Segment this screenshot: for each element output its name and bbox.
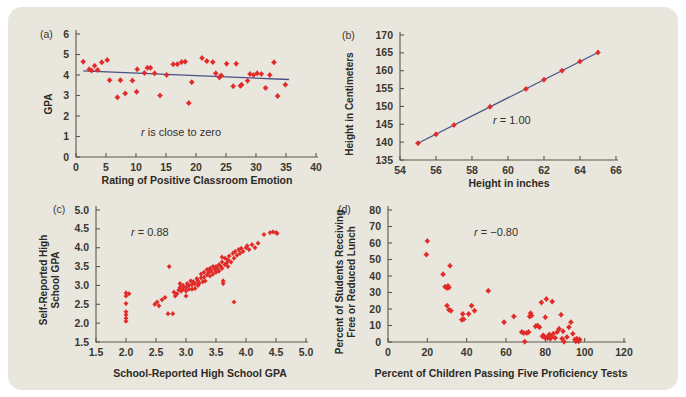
panel-a-ylabel: GPA (43, 94, 54, 115)
panel-b-plot: (b) Height in Centimeters 13514014515015… (328, 12, 673, 197)
x-tick-label: 4.5 (269, 346, 284, 358)
data-point (263, 85, 269, 91)
x-tick-label: 35 (280, 161, 292, 173)
panel-c-xlabel: School-Reported High School GPA (113, 367, 287, 379)
data-point (183, 293, 188, 298)
data-point (258, 71, 264, 77)
panel-d-xtick-group: 020406080100120 (385, 338, 633, 358)
y-tick-label: 3.0 (74, 279, 89, 291)
panel-b-letter: (b) (342, 29, 355, 41)
data-point (460, 311, 466, 317)
data-point (92, 63, 98, 69)
panel-d-ytick-group: 01020304050607080 (369, 204, 392, 348)
panel-d-ylabel-line2: Free or Reduced Lunch (346, 226, 357, 338)
panel-a-points (80, 55, 288, 106)
y-tick-label: 80 (369, 204, 381, 216)
x-tick-label: 60 (502, 164, 514, 176)
panel-a-xlabel: Rating of Positive Classroom Emotion (102, 174, 293, 186)
x-tick-label: 54 (394, 164, 406, 176)
data-point (123, 309, 128, 314)
panel-a-plot: (a) GPA 0123456 0510152025303540 r is cl… (18, 12, 343, 197)
data-point (189, 79, 195, 85)
data-point (261, 232, 266, 237)
data-point (114, 94, 120, 100)
y-tick-label: 170 (375, 29, 393, 41)
x-tick-label: 40 (310, 161, 322, 173)
data-point (472, 308, 478, 314)
panel-b-xtick-group: 54565860626466 (394, 156, 622, 176)
data-point (415, 140, 421, 146)
data-point (433, 131, 439, 137)
data-point (231, 299, 236, 304)
data-point (107, 77, 113, 83)
data-point (186, 100, 192, 106)
data-point (564, 334, 570, 340)
panel-d: (d) Percent of Students Receiving Free o… (326, 192, 676, 390)
x-tick-label: 3.0 (179, 346, 194, 358)
data-point (558, 312, 564, 318)
data-point (271, 59, 277, 65)
y-tick-label: 165 (375, 46, 393, 58)
data-point (275, 93, 281, 99)
data-point (134, 89, 140, 95)
data-point (152, 70, 158, 76)
data-point (466, 311, 472, 317)
data-point (141, 70, 147, 76)
y-tick-label: 20 (369, 303, 381, 315)
data-point (511, 313, 517, 319)
data-point (485, 288, 491, 294)
panel-a: (a) GPA 0123456 0510152025303540 r is cl… (18, 12, 343, 197)
figure-card: (a) GPA 0123456 0510152025303540 r is cl… (8, 7, 678, 390)
data-point (221, 278, 226, 283)
data-point (447, 263, 453, 269)
data-point (157, 93, 163, 99)
data-point (245, 78, 251, 84)
x-tick-label: 0 (73, 161, 79, 173)
y-tick-label: 0 (63, 151, 69, 163)
y-tick-label: 2.5 (74, 298, 89, 310)
data-point (440, 271, 446, 277)
data-point (566, 324, 572, 330)
data-point (230, 83, 236, 89)
y-tick-label: 40 (369, 270, 381, 282)
data-point (134, 66, 140, 72)
y-tick-label: 70 (369, 220, 381, 232)
y-tick-label: 0 (375, 336, 381, 348)
x-tick-label: 100 (576, 346, 594, 358)
panel-a-ytick-group: 0123456 (63, 28, 80, 163)
data-point (167, 264, 172, 269)
data-point (104, 57, 110, 63)
y-tick-label: 5 (63, 48, 69, 60)
x-tick-label: 5.0 (299, 346, 314, 358)
data-point (570, 331, 576, 337)
data-point (549, 299, 555, 305)
data-point (424, 238, 430, 244)
data-point (255, 241, 260, 246)
data-point (501, 319, 507, 325)
panel-c-annotation: r = 0.88 (131, 226, 169, 238)
y-tick-label: 2 (63, 110, 69, 122)
x-tick-label: 10 (130, 161, 142, 173)
x-tick-label: 64 (574, 164, 586, 176)
panel-a-xtick-group: 0510152025303540 (73, 153, 322, 173)
y-tick-label: 60 (369, 237, 381, 249)
x-tick-label: 5 (103, 161, 109, 173)
panel-b: (b) Height in Centimeters 13514014515015… (328, 12, 673, 197)
data-point (543, 296, 549, 302)
panel-d-xlabel: Percent of Children Passing Five Profici… (374, 367, 627, 379)
data-point (199, 55, 205, 61)
data-point (487, 104, 493, 110)
data-point (595, 50, 601, 56)
panel-c-letter: (c) (53, 203, 65, 215)
x-tick-label: 4.0 (239, 346, 254, 358)
data-point (542, 314, 548, 320)
x-tick-label: 1.5 (89, 346, 104, 358)
panel-b-trendline (418, 53, 598, 144)
data-point (538, 299, 544, 305)
x-tick-label: 20 (421, 346, 433, 358)
x-tick-label: 20 (190, 161, 202, 173)
panel-b-annotation: r = 1.00 (493, 114, 531, 126)
data-point (117, 77, 123, 83)
y-tick-label: 155 (375, 82, 393, 94)
x-tick-label: 62 (538, 164, 550, 176)
